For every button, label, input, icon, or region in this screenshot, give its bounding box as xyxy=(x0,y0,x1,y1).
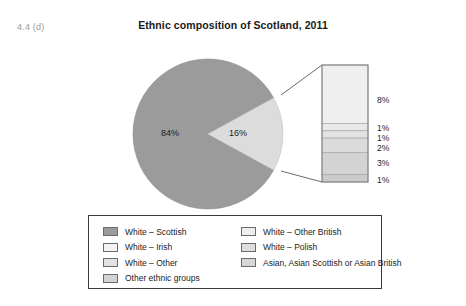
bar-segment-white-polish[interactable] xyxy=(322,131,368,138)
legend-swatch-icon xyxy=(241,243,256,252)
pie-wedges xyxy=(133,59,283,209)
bar-segment-asian[interactable] xyxy=(322,153,368,175)
bar-segment-other-ethnic-groups[interactable] xyxy=(322,175,368,182)
legend-item-other-ethnic-groups[interactable]: Other ethnic groups xyxy=(103,271,243,287)
bar-label-asian: 3% xyxy=(377,158,389,168)
legend-item-white-other[interactable]: White – Other xyxy=(103,255,243,271)
bar-segment-white-irish[interactable] xyxy=(322,124,368,131)
legend-column-right: White – Other British White – Polish Asi… xyxy=(241,224,379,271)
bar-segment-white-other-british[interactable] xyxy=(322,65,368,124)
legend-swatch-icon xyxy=(103,258,118,267)
legend-swatch-icon xyxy=(241,227,256,236)
bar-segment-white-other[interactable] xyxy=(322,138,368,153)
bar-label-white-other-british: 8% xyxy=(377,95,389,105)
legend-item-white-irish[interactable]: White – Irish xyxy=(103,240,243,256)
bar-label-white-other: 2% xyxy=(377,143,389,153)
legend-item-label: White – Scottish xyxy=(125,227,186,237)
breakout-stacked-bar xyxy=(322,65,368,182)
legend-item-label: Asian, Asian Scottish or Asian British xyxy=(263,258,401,268)
callout-connectors xyxy=(281,65,322,182)
pie-slice-label-major: 84% xyxy=(161,128,179,138)
bar-label-white-polish: 1% xyxy=(377,133,389,143)
legend-item-label: Other ethnic groups xyxy=(125,273,200,283)
connector-line-top xyxy=(281,65,322,95)
legend-swatch-icon xyxy=(103,243,118,252)
legend: White – Scottish White – Irish White – O… xyxy=(88,215,382,289)
legend-item-label: White – Irish xyxy=(125,242,172,252)
pie-slice-label-minor: 16% xyxy=(229,128,247,138)
legend-column-left: White – Scottish White – Irish White – O… xyxy=(103,224,243,286)
connector-line-bottom xyxy=(281,171,322,182)
legend-item-label: White – Polish xyxy=(263,242,317,252)
legend-item-label: White – Other British xyxy=(263,227,341,237)
legend-item-label: White – Other xyxy=(125,258,177,268)
legend-item-white-other-british[interactable]: White – Other British xyxy=(241,224,379,240)
legend-swatch-icon xyxy=(241,258,256,267)
legend-item-white-polish[interactable]: White – Polish xyxy=(241,240,379,256)
bar-label-white-irish: 1% xyxy=(377,123,389,133)
legend-item-white-scottish[interactable]: White – Scottish xyxy=(103,224,243,240)
bar-label-other-ethnic-groups: 1% xyxy=(377,175,389,185)
legend-swatch-icon xyxy=(103,227,118,236)
legend-item-asian[interactable]: Asian, Asian Scottish or Asian British xyxy=(241,255,379,271)
legend-swatch-icon xyxy=(103,274,118,283)
